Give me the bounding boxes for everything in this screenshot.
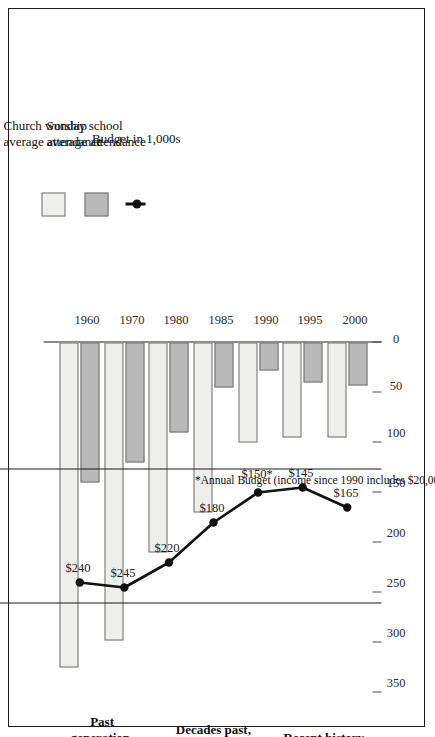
category-label-2000: 2000	[342, 312, 367, 327]
budget-point-1970	[120, 583, 128, 591]
line-marker-swatch-icon	[123, 192, 147, 216]
section-heading-0: Past generation, 25–40 years ago	[60, 701, 144, 737]
axis-tick	[372, 441, 381, 442]
axis-tick-label: 0	[392, 331, 398, 346]
axis-tick-label: 250	[386, 575, 405, 590]
category-label-1995: 1995	[297, 312, 322, 327]
category-label-1980: 1980	[163, 312, 188, 327]
square-dark-swatch-icon	[84, 192, 108, 216]
legend-entry-school: Sunday school average attendance	[80, 84, 111, 216]
section-heading-2: Recent history, past 10 years	[282, 701, 366, 737]
legend-entry-worship: Church worship average attendance	[37, 84, 68, 216]
budget-label-2000: $165	[333, 485, 358, 500]
axis-tick	[372, 391, 381, 392]
chart-legend: Church worship average attendance Sunday…	[37, 84, 147, 216]
axis-tick-label: 100	[386, 425, 405, 440]
category-label-1990: 1990	[253, 312, 278, 327]
legend-entry-budget: Budget in 1,000s	[123, 84, 147, 216]
square-light-swatch-icon	[41, 192, 65, 216]
budget-point-2000	[343, 503, 351, 511]
chart-footnote: *Annual Budget (income since 1990 includ…	[194, 473, 435, 485]
church-attendance-budget-chart: 050100150200250300350 $240$245$220$180$1…	[0, 0, 434, 736]
plot-area: 050100150200250300350 $240$245$220$180$1…	[57, 342, 369, 692]
budget-line-series	[57, 342, 369, 692]
budget-label-1980: $220	[154, 540, 179, 555]
axis-tick-label: 300	[386, 625, 405, 640]
section-divider-0	[0, 602, 381, 603]
rotated-chart-stage: 050100150200250300350 $240$245$220$180$1…	[0, 0, 434, 736]
budget-label-1970: $245	[110, 565, 135, 580]
budget-label-1985: $180	[199, 500, 224, 515]
category-label-1960: 1960	[74, 312, 99, 327]
axis-tick	[372, 591, 381, 592]
axis-tick-label: 50	[389, 378, 402, 393]
axis-tick	[372, 641, 381, 642]
axis-tick-label: 350	[386, 675, 405, 690]
budget-label-1960: $240	[65, 560, 90, 575]
axis-tick	[372, 341, 381, 342]
legend-label-budget: Budget in 1,000s	[91, 131, 179, 147]
budget-point-1960	[75, 578, 83, 586]
section-heading-1: Decades past, 10–20 years ago	[171, 679, 255, 737]
category-label-1970: 1970	[119, 312, 144, 327]
axis-tick	[372, 541, 381, 542]
axis-tick	[372, 491, 381, 492]
section-divider-1	[0, 468, 381, 469]
axis-tick-label: 200	[386, 525, 405, 540]
axis-tick	[372, 691, 381, 692]
category-label-1985: 1985	[208, 312, 233, 327]
chart-frame: 050100150200250300350 $240$245$220$180$1…	[8, 8, 425, 727]
